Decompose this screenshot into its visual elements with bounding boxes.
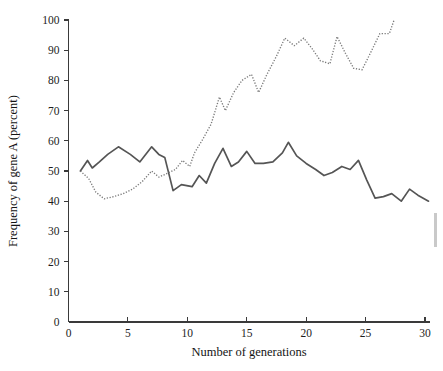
x-tick-label: 10 xyxy=(182,327,194,339)
page-edge-artifact xyxy=(434,213,437,247)
x-tick-label: 30 xyxy=(419,327,431,339)
y-tick-label: 0 xyxy=(54,316,60,328)
y-tick-label: 90 xyxy=(48,44,60,56)
chart-canvas: 0102030405060708090100 051015202530 Numb… xyxy=(0,0,443,371)
x-tick-label: 15 xyxy=(241,327,253,339)
y-axis: 0102030405060708090100 xyxy=(42,14,68,328)
y-tick-label: 30 xyxy=(48,225,60,237)
series-line-population-2-dotted xyxy=(80,20,394,199)
x-tick-label: 20 xyxy=(300,327,312,339)
x-tick-label: 0 xyxy=(66,327,72,339)
y-tick-label: 40 xyxy=(48,195,60,207)
x-tick-label: 5 xyxy=(125,327,131,339)
x-tick-label: 25 xyxy=(360,327,372,339)
x-axis-title: Number of generations xyxy=(191,345,306,359)
y-tick-label: 100 xyxy=(42,14,60,26)
y-tick-label: 80 xyxy=(48,74,60,86)
chart-figure: 0102030405060708090100 051015202530 Numb… xyxy=(0,0,443,371)
y-tick-label: 70 xyxy=(48,105,60,117)
plot-area xyxy=(80,20,428,201)
x-axis: 051015202530 xyxy=(66,317,431,339)
series-line-population-1-solid xyxy=(80,142,428,201)
x-axis-ticks: 051015202530 xyxy=(66,317,431,339)
y-tick-label: 50 xyxy=(48,165,60,177)
y-tick-label: 10 xyxy=(48,286,60,298)
y-tick-label: 60 xyxy=(48,135,60,147)
y-tick-label: 20 xyxy=(48,256,60,268)
y-axis-title: Frequency of gene A (percent) xyxy=(6,95,20,247)
y-axis-ticks: 0102030405060708090100 xyxy=(42,14,68,328)
